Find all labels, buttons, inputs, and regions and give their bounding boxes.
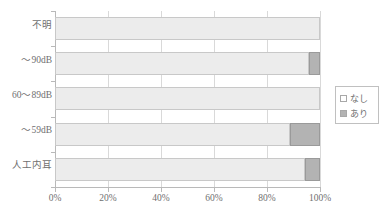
y-axis-label-1: ～90dB	[0, 55, 52, 66]
bar-segment-yes	[309, 52, 320, 75]
bar-segment-yes	[305, 158, 320, 181]
x-axis-tick-80	[267, 188, 268, 192]
legend-label-none: なし	[350, 94, 368, 104]
x-axis-label-100: 100%	[300, 193, 340, 203]
x-axis-tick-40	[161, 188, 162, 192]
chart-legend: なし あり	[335, 86, 379, 124]
legend-item-yes: あり	[340, 106, 375, 121]
table-row	[55, 52, 320, 75]
bar-segment-none	[55, 158, 305, 181]
bar-segment-none	[55, 87, 320, 110]
y-axis-label-4: 人工内耳	[0, 160, 52, 171]
bar-segment-none	[55, 123, 290, 146]
y-axis-labels: 不明 ～90dB 60～89dB ～59dB 人工内耳	[0, 0, 52, 218]
table-row	[55, 158, 320, 181]
legend-item-none: なし	[340, 91, 375, 106]
legend-label-yes: あり	[350, 109, 368, 119]
x-axis-tick-100	[320, 188, 321, 192]
x-axis-label-0: 0%	[35, 193, 75, 203]
gray-square-swatch-icon	[340, 110, 347, 117]
x-axis-label-40: 40%	[141, 193, 181, 203]
table-row	[55, 87, 320, 110]
x-axis-tick-60	[214, 188, 215, 192]
x-axis-tick-20	[108, 188, 109, 192]
bar-segment-none	[55, 17, 320, 40]
bar-segment-none	[55, 52, 309, 75]
x-axis-label-80: 80%	[247, 193, 287, 203]
y-axis-label-0: 不明	[0, 20, 52, 31]
x-axis-label-60: 60%	[194, 193, 234, 203]
table-row	[55, 17, 320, 40]
white-square-swatch-icon	[340, 95, 347, 102]
y-axis-label-2: 60～89dB	[0, 90, 52, 101]
stacked-bar-chart: 不明 ～90dB 60～89dB ～59dB 人工内耳	[0, 0, 385, 218]
x-axis-line	[55, 187, 321, 188]
plot-area	[55, 11, 320, 187]
gridline-100	[320, 11, 321, 187]
y-axis-label-3: ～59dB	[0, 125, 52, 136]
table-row	[55, 123, 320, 146]
bar-segment-yes	[290, 123, 320, 146]
x-axis-label-20: 20%	[88, 193, 128, 203]
x-axis-tick-0	[55, 188, 56, 192]
